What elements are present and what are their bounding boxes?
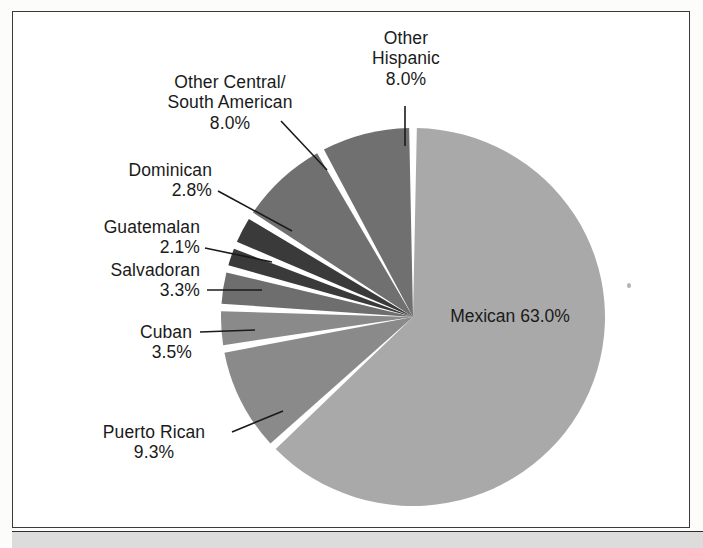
slice-label-other-hispanic-line1: Other [360, 28, 452, 48]
slice-label-guatemalan-value: 2.1% [48, 237, 200, 257]
slice-label-cuban-name: Cuban [62, 322, 192, 342]
slice-label-puerto-rican-name: Puerto Rican [82, 422, 226, 442]
slice-label-dominican-value: 2.8% [60, 180, 212, 200]
slice-label-other-central-south-american: Other Central/ South American 8.0% [150, 72, 310, 133]
slice-label-cuban-value: 3.5% [62, 342, 192, 362]
slice-label-other-hispanic-line2: Hispanic [360, 48, 452, 68]
slice-label-dominican-name: Dominican [60, 160, 212, 180]
slice-label-guatemalan-name: Guatemalan [48, 217, 200, 237]
slice-label-other-hispanic: Other Hispanic 8.0% [360, 28, 452, 89]
slice-label-salvadoran: Salvadoran 3.3% [48, 260, 200, 301]
chart-page: Other Hispanic 8.0% Other Central/ South… [0, 0, 703, 548]
bottom-band [12, 531, 703, 548]
slice-label-mexican: Mexican 63.0% [450, 306, 570, 326]
slice-label-dominican: Dominican 2.8% [60, 160, 212, 201]
slice-label-puerto-rican: Puerto Rican 9.3% [82, 422, 226, 463]
slice-label-salvadoran-value: 3.3% [48, 280, 200, 300]
slice-label-mexican-value: 63.0% [520, 306, 570, 326]
slice-label-other-central-south-american-line1: Other Central/ [150, 72, 310, 92]
slice-label-mexican-name: Mexican [450, 306, 515, 326]
slice-label-salvadoran-name: Salvadoran [48, 260, 200, 280]
scan-speck [627, 283, 631, 288]
slice-label-guatemalan: Guatemalan 2.1% [48, 217, 200, 258]
slice-label-other-hispanic-value: 8.0% [360, 69, 452, 89]
slice-label-cuban: Cuban 3.5% [62, 322, 192, 363]
slice-label-puerto-rican-value: 9.3% [82, 442, 226, 462]
slice-label-other-central-south-american-line2: South American [150, 92, 310, 112]
slice-label-other-central-south-american-value: 8.0% [150, 113, 310, 133]
